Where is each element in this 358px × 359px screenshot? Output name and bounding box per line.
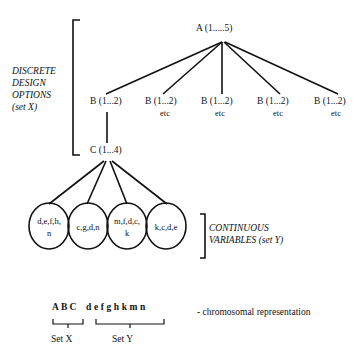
set-x-label-line2: DESIGN <box>12 77 46 89</box>
circle-1-text: d,e,f,h, n <box>29 215 69 239</box>
chromosome-set-x-genes: ABC <box>52 302 79 312</box>
set-y-label-line2: VARIABLES (set Y) <box>209 234 283 246</box>
root-node-a: A (1.....5) <box>196 23 232 34</box>
circle-2-text: c,g,d,n <box>68 221 108 233</box>
set-x-label-line4: (set X) <box>12 101 37 113</box>
set-x-label-line3: OPTIONS <box>12 89 51 101</box>
set-x-bracket <box>73 20 80 155</box>
circle-3-line2: k <box>107 227 147 239</box>
circle-1-line2: n <box>29 227 69 239</box>
set-y-bracket <box>200 214 205 258</box>
b-node-5-etc: etc <box>331 108 341 118</box>
set-y-label-line1: CONTINUOUS <box>209 222 269 234</box>
b-node-3-etc: etc <box>215 108 225 118</box>
b-node-3: B (1...2) <box>201 96 233 107</box>
b-node-4-etc: etc <box>273 108 283 118</box>
circle-3-line1: m,f,d,c, <box>107 215 147 227</box>
circle-4-line1: k,c,d,e <box>146 221 186 233</box>
set-y-gene-label: Set Y <box>112 334 133 345</box>
b-node-4: B (1...2) <box>257 96 289 107</box>
b-node-2-etc: etc <box>160 108 170 118</box>
set-x-label-line1: DISCRETE <box>12 65 56 77</box>
circle-3-text: m,f,d,c, k <box>107 215 147 239</box>
b-node-2: B (1...2) <box>145 96 177 107</box>
circle-2-line1: c,g,d,n <box>68 221 108 233</box>
b-node-5: B (1...2) <box>314 96 346 107</box>
b-node-1: B (1...2) <box>90 96 122 107</box>
chromosome-set-y-genes: defghkmn <box>86 302 148 312</box>
circle-1-line1: d,e,f,h, <box>29 215 69 227</box>
c-node: C (1...4) <box>90 145 122 156</box>
circle-4-text: k,c,d,e <box>146 221 186 233</box>
chromosome-caption: - chromosomal representation <box>197 307 310 318</box>
set-x-gene-label: Set X <box>51 334 72 345</box>
